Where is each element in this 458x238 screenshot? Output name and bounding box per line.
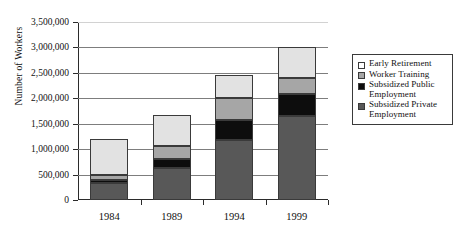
bar — [278, 47, 316, 200]
bar-segment — [278, 94, 316, 116]
bar-segment — [90, 139, 128, 175]
legend-item-label: Worker Training — [369, 70, 429, 80]
bar-segment — [90, 183, 128, 200]
legend-item: Early Retirement — [358, 59, 448, 69]
y-axis-tick-label: 2,000,000 — [31, 93, 69, 103]
bar-segment — [215, 140, 253, 200]
bar-segment — [153, 159, 191, 168]
legend-item-label: Subsidized Private Employment — [369, 100, 437, 119]
y-axis-tick-label: 0 — [64, 195, 69, 205]
plot-area: 0500,0001,000,0001,500,0002,000,0002,500… — [78, 22, 328, 200]
legend-swatch-icon — [358, 72, 365, 79]
bar-segment — [278, 78, 316, 94]
y-axis-tick — [73, 175, 78, 176]
legend-item-label: Subsidized Public Employment — [369, 80, 435, 99]
legend-item: Worker Training — [358, 70, 448, 80]
y-axis-tick-label: 3,000,000 — [31, 42, 69, 52]
y-axis-tick-label: 1,000,000 — [31, 144, 69, 154]
bar-segment — [215, 120, 253, 140]
x-axis-tick — [266, 200, 267, 205]
y-axis-tick — [73, 98, 78, 99]
y-axis-tick-label: 1,500,000 — [31, 119, 69, 129]
bar-segment — [90, 180, 128, 183]
y-axis-tick — [73, 124, 78, 125]
bar-segment — [278, 47, 316, 78]
x-axis-tick — [141, 200, 142, 205]
bar-segment — [215, 98, 253, 119]
bar — [90, 139, 128, 200]
legend-swatch-icon — [358, 62, 365, 69]
y-axis-tick-label: 3,500,000 — [31, 17, 69, 27]
gridline — [78, 22, 328, 23]
y-axis-tick — [73, 22, 78, 23]
y-axis-tick — [73, 200, 78, 201]
bar-segment — [278, 116, 316, 200]
bar — [215, 75, 253, 200]
legend-item: Subsidized Private Employment — [358, 100, 448, 119]
x-axis-tick-label: 1984 — [99, 211, 120, 222]
y-axis-tick-label: 500,000 — [38, 170, 69, 180]
y-axis-tick — [73, 47, 78, 48]
y-axis-tick-label: 2,500,000 — [31, 68, 69, 78]
legend-item: Subsidized Public Employment — [358, 80, 448, 99]
bar-segment — [153, 168, 191, 200]
bar-segment — [90, 175, 128, 180]
chart-legend: Early RetirementWorker TrainingSubsidize… — [352, 54, 453, 125]
bar-segment — [153, 115, 191, 146]
bar-segment — [215, 75, 253, 98]
legend-swatch-icon — [358, 83, 365, 90]
bar-chart: Number of Workers 0500,0001,000,0001,500… — [0, 0, 458, 238]
x-axis-tick — [203, 200, 204, 205]
x-axis-tick-label: 1994 — [224, 211, 245, 222]
legend-swatch-icon — [358, 103, 365, 110]
x-axis-tick — [328, 200, 329, 205]
x-axis-tick-label: 1999 — [286, 211, 307, 222]
y-axis-tick — [73, 149, 78, 150]
y-axis-tick — [73, 73, 78, 74]
bar-segment — [153, 146, 191, 160]
bar — [153, 115, 191, 200]
x-axis-tick-label: 1989 — [161, 211, 182, 222]
legend-item-label: Early Retirement — [369, 59, 432, 69]
